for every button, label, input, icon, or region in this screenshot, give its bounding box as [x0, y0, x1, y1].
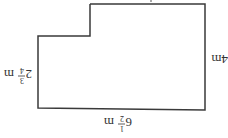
shape-outline	[38, 4, 205, 110]
svg-text:4: 4	[20, 66, 24, 75]
label-step-side: 2 3 4 m	[4, 66, 32, 85]
label-long-side: 6 1 2 m	[104, 114, 132, 133]
svg-text:2: 2	[26, 67, 33, 82]
floor-plan-diagram: 6 1 2 m 4m 2 3 4 m	[0, 0, 228, 138]
svg-text:1: 1	[120, 124, 124, 133]
svg-text:m: m	[4, 67, 14, 82]
svg-text:6: 6	[125, 115, 132, 130]
svg-text:3: 3	[20, 76, 24, 85]
label-short-side: 4m	[211, 52, 228, 67]
svg-text:2: 2	[120, 114, 124, 123]
svg-text:4m: 4m	[211, 52, 228, 67]
svg-text:m: m	[104, 115, 114, 130]
